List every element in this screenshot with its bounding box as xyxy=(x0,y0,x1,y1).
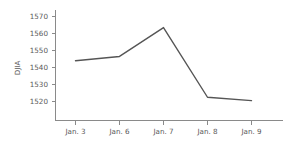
y-tick-label-1540: 1540 xyxy=(30,63,49,72)
line-chart: 1570 1560 1550 1540 1530 1520 DJIA Jan. … xyxy=(0,0,290,150)
x-tick-label-jan-7: Jan. 7 xyxy=(152,127,173,136)
data-series-djia xyxy=(76,28,252,101)
x-tick-label-jan-9: Jan. 9 xyxy=(240,127,262,136)
x-tick-label-jan-8: Jan. 8 xyxy=(196,127,218,136)
y-tick-label-1520: 1520 xyxy=(30,97,49,106)
y-tick-label-1530: 1530 xyxy=(30,80,49,89)
chart-container: 1570 1560 1550 1540 1530 1520 DJIA Jan. … xyxy=(0,0,290,150)
y-tick-label-1570: 1570 xyxy=(30,12,49,21)
y-tick-label-1550: 1550 xyxy=(30,46,49,55)
y-tick-label-1560: 1560 xyxy=(30,29,49,38)
x-tick-label-jan-6: Jan. 6 xyxy=(108,127,130,136)
x-axis: Jan. 3 Jan. 6 Jan. 7 Jan. 8 Jan. 9 xyxy=(56,121,284,137)
y-axis-title: DJIA xyxy=(13,61,22,76)
y-axis: 1570 1560 1550 1540 1530 1520 DJIA xyxy=(13,10,56,121)
x-tick-label-jan-3: Jan. 3 xyxy=(64,127,85,136)
plot-area xyxy=(76,28,252,101)
